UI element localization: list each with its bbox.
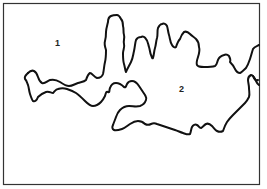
region-1-label: 1 bbox=[55, 39, 60, 48]
boundary-diagram-svg bbox=[0, 0, 267, 189]
diagram-figure: 1 2 bbox=[0, 0, 267, 189]
region-2-label: 2 bbox=[179, 85, 184, 94]
